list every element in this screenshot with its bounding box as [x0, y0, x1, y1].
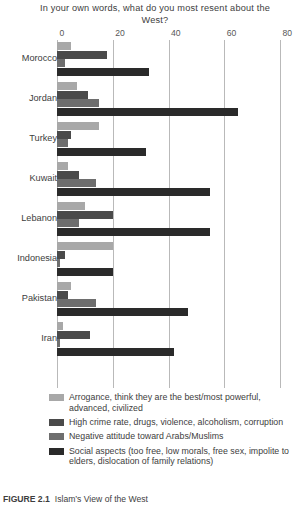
bar	[57, 259, 60, 267]
bar	[57, 59, 65, 67]
category-label-turkey: Turkey	[0, 133, 57, 143]
legend-label: Social aspects (too free, low morals, fr…	[69, 446, 301, 468]
chart-legend: Arrogance, think they are the best/most …	[0, 392, 302, 471]
legend-swatch-icon	[49, 419, 64, 426]
figure-container: In your own words, what do you most rese…	[0, 0, 302, 509]
plot-area: 020406080 MoroccoJordanTurkeyKuwaitLeban…	[0, 28, 302, 390]
category-label-indonesia: Indonesia	[0, 253, 57, 263]
bar	[57, 68, 149, 76]
category-label-lebanon: Lebanon	[0, 213, 57, 223]
bar	[57, 99, 99, 107]
legend-label: Negative attitude toward Arabs/Muslims	[69, 431, 224, 442]
bar	[57, 242, 113, 250]
legend-label: High crime rate, drugs, violence, alcoho…	[69, 417, 283, 428]
bar	[57, 291, 68, 299]
bar	[57, 179, 96, 187]
legend-swatch-icon	[49, 448, 64, 455]
bar	[57, 348, 174, 356]
bar	[57, 148, 146, 156]
bar	[57, 282, 71, 290]
bar	[57, 228, 210, 236]
bar	[57, 51, 107, 59]
category-label-pakistan: Pakistan	[0, 293, 57, 303]
bars-container	[57, 42, 302, 78]
bar	[57, 251, 65, 259]
bar	[57, 339, 60, 347]
category-label-morocco: Morocco	[0, 53, 57, 63]
bar	[57, 308, 188, 316]
legend-label: Arrogance, think they are the best/most …	[69, 392, 301, 414]
bar	[57, 108, 238, 116]
bars-container	[57, 202, 302, 238]
chart-title: In your own words, what do you most rese…	[30, 3, 280, 26]
bar	[57, 331, 90, 339]
bar	[57, 211, 113, 219]
legend-item[interactable]: High crime rate, drugs, violence, alcoho…	[0, 417, 302, 428]
bar	[57, 322, 63, 330]
bar	[57, 268, 113, 276]
caption-label: FIGURE 2.1	[3, 494, 50, 504]
bars-container	[57, 122, 302, 158]
bars-container	[57, 282, 302, 318]
x-tick-label-0: 0	[57, 28, 64, 39]
legend-swatch-icon	[49, 394, 64, 401]
bar-group: Kuwait	[0, 160, 302, 200]
bar	[57, 171, 79, 179]
bar-group: Lebanon	[0, 200, 302, 240]
bar	[57, 202, 85, 210]
bar-group: Indonesia	[0, 240, 302, 280]
x-tick-label-80: 80	[280, 28, 292, 39]
bars-container	[57, 322, 302, 358]
bar	[57, 42, 71, 50]
bar	[57, 188, 210, 196]
bar	[57, 131, 71, 139]
bar	[57, 122, 99, 130]
bar-group: Iran	[0, 320, 302, 360]
bar	[57, 219, 79, 227]
bar-group: Jordan	[0, 80, 302, 120]
category-label-jordan: Jordan	[0, 93, 57, 103]
x-tick-label-20: 20	[113, 28, 125, 39]
bar	[57, 139, 68, 147]
bar	[57, 91, 88, 99]
x-tick-label-60: 60	[224, 28, 236, 39]
plot-grid: MoroccoJordanTurkeyKuwaitLebanonIndonesi…	[0, 40, 302, 390]
bar	[57, 299, 96, 307]
legend-item[interactable]: Arrogance, think they are the best/most …	[0, 392, 302, 414]
bar	[57, 82, 77, 90]
bar-group: Pakistan	[0, 280, 302, 320]
bars-container	[57, 242, 302, 278]
bar	[57, 162, 68, 170]
legend-item[interactable]: Negative attitude toward Arabs/Muslims	[0, 431, 302, 442]
x-tick-label-40: 40	[169, 28, 181, 39]
legend-item[interactable]: Social aspects (too free, low morals, fr…	[0, 446, 302, 468]
bar-group: Morocco	[0, 40, 302, 80]
caption-text: Islam’s View of the West	[55, 494, 148, 504]
legend-swatch-icon	[49, 433, 64, 440]
category-label-kuwait: Kuwait	[0, 173, 57, 183]
bars-container	[57, 82, 302, 118]
category-label-iran: Iran	[0, 333, 57, 343]
figure-caption: FIGURE 2.1Islam’s View of the West	[3, 494, 302, 504]
bars-container	[57, 162, 302, 198]
bar-group: Turkey	[0, 120, 302, 160]
